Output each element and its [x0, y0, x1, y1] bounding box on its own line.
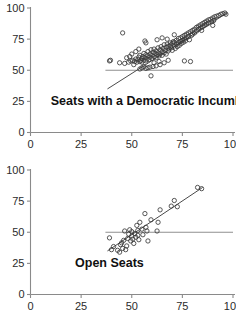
scatter-point — [175, 205, 179, 209]
x-axis-tick-label: 0 — [27, 138, 33, 150]
scatter-point — [165, 37, 169, 41]
scatter-point — [138, 220, 142, 224]
scatter-figure: 02550751000255075100Seats with a Democra… — [0, 0, 236, 324]
scatter-point — [172, 33, 176, 37]
y-axis-tick-label: 75 — [12, 33, 24, 45]
scatter-point — [132, 241, 136, 245]
scatter-point — [169, 204, 173, 208]
scatter-point — [149, 74, 153, 78]
scatter-point — [137, 238, 141, 242]
x-axis-tick-label: 25 — [75, 300, 87, 312]
chart-svg-bottom: 02550751000255075100Open Seats — [0, 162, 236, 324]
x-axis-tick-label: 75 — [176, 300, 188, 312]
y-axis-tick-label: 50 — [12, 64, 24, 76]
chart-panel-democratic-incumbent: 02550751000255075100Seats with a Democra… — [0, 0, 236, 162]
scatter-points-group — [107, 185, 203, 254]
scatter-point — [117, 61, 121, 65]
scatter-point — [107, 236, 111, 240]
scatter-point — [146, 239, 150, 243]
x-axis-tick-label: 100 — [224, 138, 236, 150]
scatter-point — [156, 220, 160, 224]
chart-panel-open-seats: 02550751000255075100Open Seats — [0, 162, 236, 324]
scatter-point — [166, 58, 170, 62]
scatter-point — [172, 198, 176, 202]
x-axis-tick-label: 25 — [75, 138, 87, 150]
y-axis-tick-label: 25 — [12, 257, 24, 269]
x-axis-tick-label: 50 — [126, 300, 138, 312]
scatter-point — [141, 233, 145, 237]
panel-title: Seats with a Democratic Incumbent — [51, 94, 236, 108]
chart-svg-top: 02550751000255075100Seats with a Democra… — [0, 0, 236, 162]
scatter-point — [120, 31, 124, 35]
x-axis-tick-label: 100 — [224, 300, 236, 312]
scatter-points-group — [107, 11, 228, 78]
y-axis-tick-label: 0 — [18, 288, 24, 300]
scatter-point — [160, 36, 164, 40]
y-axis-tick-label: 100 — [6, 164, 24, 176]
y-axis-tick-label: 100 — [6, 2, 24, 14]
x-axis-tick-label: 0 — [27, 300, 33, 312]
x-axis-tick-label: 75 — [176, 138, 188, 150]
scatter-point — [143, 211, 147, 215]
scatter-point — [134, 49, 138, 53]
scatter-point — [188, 59, 192, 63]
y-axis-tick-label: 50 — [12, 226, 24, 238]
y-axis-tick-label: 0 — [18, 126, 24, 138]
x-axis-tick-label: 50 — [126, 138, 138, 150]
scatter-point — [158, 208, 162, 212]
panel-title: Open Seats — [75, 256, 144, 270]
scatter-point — [155, 38, 159, 42]
y-axis-tick-label: 25 — [12, 95, 24, 107]
y-axis-tick-label: 75 — [12, 195, 24, 207]
scatter-point — [182, 59, 186, 63]
